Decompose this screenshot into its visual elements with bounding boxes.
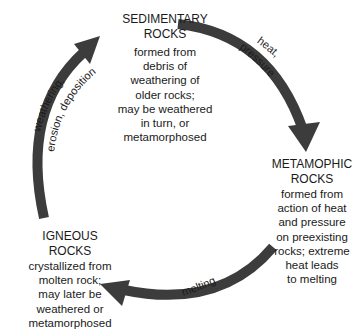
- arrow-metamorphic-to-igneous: [100, 247, 273, 306]
- arrow-igneous-to-sedimentary: [37, 36, 100, 218]
- node-desc-line: may later be: [18, 287, 122, 301]
- node-desc-line: older rocks;: [110, 88, 220, 102]
- node-desc-line: and pressure: [266, 215, 358, 229]
- node-desc-line: action of heat: [266, 201, 358, 215]
- node-title: ROCKS: [110, 27, 220, 42]
- node-metamorphic-rocks: METAMOPHIC ROCKS formed from action of h…: [266, 157, 358, 286]
- node-desc-line: in turn, or: [110, 116, 220, 130]
- node-title: METAMOPHIC: [266, 157, 358, 172]
- node-desc-line: weathering of: [110, 73, 220, 87]
- node-desc-line: weathered or: [18, 302, 122, 316]
- node-desc-line: heat leads: [266, 258, 358, 272]
- node-title: IGNEOUS: [18, 229, 122, 244]
- node-desc-line: rocks; extreme: [266, 244, 358, 258]
- node-title: SEDIMENTARY: [110, 12, 220, 27]
- node-desc-line: to melting: [266, 272, 358, 286]
- node-desc-line: formed from: [110, 45, 220, 59]
- node-sedimentary-rocks: SEDIMENTARY ROCKS formed from debris of …: [110, 12, 220, 144]
- node-desc-line: crystallized from: [18, 259, 122, 273]
- node-desc-line: metamorphosed: [18, 316, 122, 330]
- node-desc-line: on preexisting: [266, 230, 358, 244]
- node-desc-line: molten rock;: [18, 273, 122, 287]
- edge-label-erosion: erosion, deposition: [44, 65, 98, 152]
- node-igneous-rocks: IGNEOUS ROCKS crystallized from molten r…: [18, 229, 122, 330]
- node-desc-line: formed from: [266, 187, 358, 201]
- node-title: ROCKS: [266, 172, 358, 187]
- node-title: ROCKS: [18, 244, 122, 259]
- node-desc-line: debris of: [110, 59, 220, 73]
- node-desc-line: metamorphosed: [110, 130, 220, 144]
- node-desc-line: may be weathered: [110, 102, 220, 116]
